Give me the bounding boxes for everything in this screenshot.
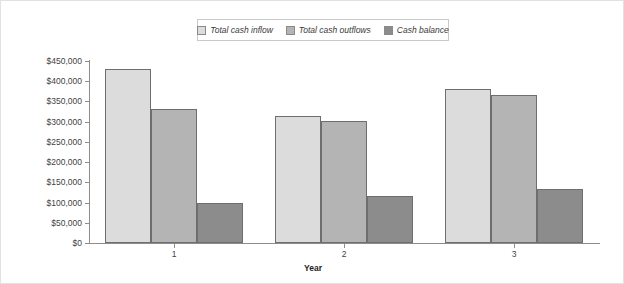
x-axis-tick-label: 2 <box>342 250 347 259</box>
x-axis-tick-mark <box>174 244 175 248</box>
legend-item-total-cash-outflows: Total cash outflows <box>286 26 371 35</box>
y-axis-tick-mark <box>85 162 89 163</box>
y-axis-tick-label: $100,000 <box>47 198 89 207</box>
x-axis-tick-mark <box>344 244 345 248</box>
legend-swatch-icon-series-2 <box>286 26 295 35</box>
y-axis-tick-label: $300,000 <box>47 117 89 126</box>
bar <box>537 189 583 243</box>
legend-label-series-1: Total cash inflow <box>210 26 273 35</box>
y-axis-tick-label: $200,000 <box>47 158 89 167</box>
legend-item-cash-balance: Cash balance <box>384 26 449 35</box>
x-axis-title: Year <box>1 264 624 273</box>
bar <box>105 69 151 243</box>
legend-item-total-cash-inflow: Total cash inflow <box>197 26 273 35</box>
legend-swatch-icon-series-3 <box>384 26 393 35</box>
chart-legend: Total cash inflow Total cash outflows Ca… <box>197 19 449 41</box>
bar <box>321 121 367 243</box>
y-axis-tick-mark <box>85 203 89 204</box>
y-axis-tick-label: $350,000 <box>47 97 89 106</box>
y-axis-tick-mark <box>85 142 89 143</box>
y-axis-tick-mark <box>85 182 89 183</box>
y-axis-tick-mark <box>85 81 89 82</box>
y-axis-tick-label: $150,000 <box>47 178 89 187</box>
plot-area: $0$50,000$100,000$150,000$200,000$250,00… <box>89 61 599 243</box>
bar <box>491 95 537 243</box>
y-axis-tick-mark <box>85 101 89 102</box>
y-axis-tick-mark <box>85 243 89 244</box>
bar <box>275 116 321 243</box>
bar <box>445 89 491 243</box>
legend-label-series-2: Total cash outflows <box>299 26 371 35</box>
x-axis-tick-label: 3 <box>512 250 517 259</box>
bar <box>197 203 243 243</box>
bar <box>151 109 197 243</box>
y-axis-tick-mark <box>85 223 89 224</box>
legend-label-series-3: Cash balance <box>397 26 449 35</box>
y-axis-tick-label: $450,000 <box>47 57 89 66</box>
x-axis-tick-mark <box>514 244 515 248</box>
chart-figure: Total cash inflow Total cash outflows Ca… <box>0 0 624 284</box>
bar <box>367 196 413 243</box>
y-axis-tick-label: $250,000 <box>47 138 89 147</box>
y-axis-tick-mark <box>85 122 89 123</box>
y-axis-tick-mark <box>85 61 89 62</box>
x-axis-tick-label: 1 <box>172 250 177 259</box>
y-axis-tick-label: $400,000 <box>47 77 89 86</box>
y-axis-tick-label: $50,000 <box>51 219 89 228</box>
legend-swatch-icon-series-1 <box>197 26 206 35</box>
